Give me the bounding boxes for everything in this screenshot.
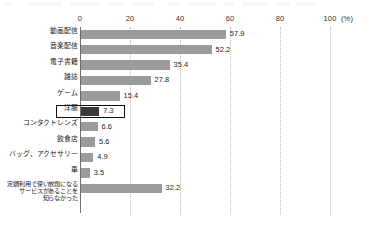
bar-row: 飲食店5.6 xyxy=(0,135,365,150)
bar xyxy=(81,45,212,54)
x-axis-tick-label: 60 xyxy=(226,14,235,23)
bar xyxy=(81,76,151,85)
bar-value-label: 5.6 xyxy=(99,137,110,146)
bar-value-label: 3.5 xyxy=(94,168,105,177)
bar xyxy=(81,60,170,69)
x-axis-tick-label: 40 xyxy=(176,14,185,23)
bar xyxy=(81,107,99,116)
bar-value-label: 7.3 xyxy=(103,106,114,115)
category-label: 車 xyxy=(2,166,78,174)
bar-value-label: 4.9 xyxy=(97,152,108,161)
bar-row: 音楽配信52.2 xyxy=(0,42,365,57)
category-label: 飲食店 xyxy=(2,135,78,143)
bar-plot-area: 動画配信57.9音楽配信52.2電子書籍35.4雑誌27.8ゲーム15.4洋服7… xyxy=(0,27,365,210)
category-label: 定額利用で使い放題になる サービスがあることを 知らなかった xyxy=(2,180,78,201)
artifact-fragment xyxy=(188,2,216,6)
category-label: コンタクトレンズ xyxy=(2,119,78,127)
bar xyxy=(81,91,120,100)
bar-row: ゲーム15.4 xyxy=(0,89,365,104)
category-label: 電子書籍 xyxy=(2,58,78,66)
bar-value-label: 52.2 xyxy=(216,45,231,54)
bar-value-label: 27.8 xyxy=(155,75,170,84)
bar-row: 電子書籍35.4 xyxy=(0,58,365,73)
artifact-fragment xyxy=(132,2,154,6)
x-axis-tick-label: 20 xyxy=(126,14,135,23)
bar xyxy=(81,168,90,177)
artifact-fragment xyxy=(276,2,290,6)
artifact-fragment xyxy=(296,2,316,6)
bar-row: 定額利用で使い放題になる サービスがあることを 知らなかった32.2 xyxy=(0,181,365,210)
artifact-fragment xyxy=(4,2,11,6)
bar-row: 洋服7.3 xyxy=(0,104,365,119)
x-axis-unit-label: (%) xyxy=(341,14,353,23)
artifact-fragment xyxy=(70,2,100,6)
bar-row: 動画配信57.9 xyxy=(0,27,365,42)
bar xyxy=(81,122,98,131)
bar-row: 雑誌27.8 xyxy=(0,73,365,88)
category-label: 洋服 xyxy=(2,104,78,112)
artifact-fragment xyxy=(108,2,124,6)
artifact-fragment xyxy=(168,2,180,6)
artifact-fragment xyxy=(242,2,268,6)
bar-row: バッグ、アクセサリー4.9 xyxy=(0,150,365,165)
bar xyxy=(81,153,93,162)
bar xyxy=(81,137,95,146)
bar xyxy=(81,30,226,39)
artifact-fragment xyxy=(224,2,234,6)
bar-value-label: 57.9 xyxy=(230,29,245,38)
bar-value-label: 15.4 xyxy=(124,91,139,100)
category-label: 音楽配信 xyxy=(2,42,78,50)
cropped-text-artifact-strip xyxy=(0,0,365,9)
bar-row: コンタクトレンズ6.6 xyxy=(0,119,365,134)
x-axis-tick-label: 80 xyxy=(276,14,285,23)
category-label: ゲーム xyxy=(2,89,78,97)
artifact-fragment xyxy=(28,2,62,6)
bar-value-label: 35.4 xyxy=(174,60,189,69)
bar-row: 車3.5 xyxy=(0,166,365,181)
bar-value-label: 32.2 xyxy=(166,183,181,192)
x-axis-tick-label: 100 xyxy=(324,14,337,23)
x-axis-tick-label: 0 xyxy=(78,14,82,23)
bar xyxy=(81,184,162,193)
bar-value-label: 6.6 xyxy=(102,122,113,131)
x-axis-tick-labels: 020406080100(%) xyxy=(0,14,365,26)
category-label: バッグ、アクセサリー xyxy=(2,150,78,158)
category-label: 雑誌 xyxy=(2,73,78,81)
chart-screenshot: 020406080100(%) 動画配信57.9音楽配信52.2電子書籍35.4… xyxy=(0,0,365,225)
category-label: 動画配信 xyxy=(2,27,78,35)
